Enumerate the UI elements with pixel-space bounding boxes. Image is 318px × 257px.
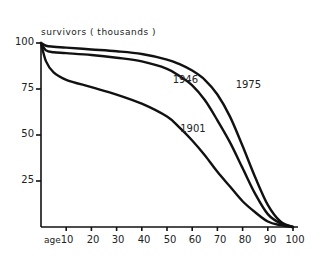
series-line-1946: [41, 43, 293, 227]
series-line-1975: [41, 43, 293, 227]
series-label-1946: 1946: [173, 74, 198, 85]
series-line-1901: [41, 43, 293, 227]
series-label-1901: 1901: [180, 123, 205, 134]
plot-area: [0, 0, 318, 257]
axes: [36, 43, 298, 231]
series-label-1975: 1975: [236, 79, 261, 90]
